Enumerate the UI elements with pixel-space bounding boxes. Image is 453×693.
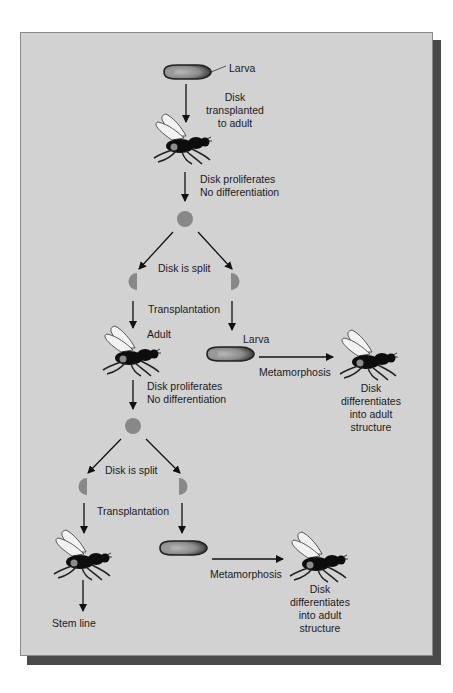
- label-proliferates-2: Disk proliferates: [147, 380, 222, 392]
- label-diff2-1: Disk: [310, 583, 330, 595]
- label-diff1-4: structure: [351, 421, 392, 433]
- label-metamorphosis-2: Metamorphosis: [210, 568, 282, 580]
- label-diff2-3: into adult: [299, 609, 342, 621]
- larva-icon: [164, 65, 211, 79]
- label-larva-top: Larva: [229, 62, 255, 74]
- half-disk-icon: [129, 273, 138, 290]
- label-diff1-3: into adult: [350, 408, 393, 420]
- label-adult: Adult: [147, 328, 171, 340]
- disk-icon: [177, 211, 193, 227]
- label-transplantation-2: Transplantation: [97, 505, 169, 517]
- half-disk-icon: [231, 273, 240, 290]
- label-stem-line: Stem line: [52, 617, 96, 629]
- label-transplant-3: to adult: [218, 117, 252, 129]
- label-transplant-2: transplanted: [206, 104, 264, 116]
- label-split-2: Disk is split: [105, 464, 158, 476]
- label-diff1-2: differentiates: [341, 395, 401, 407]
- label-no-diff-2: No differentiation: [147, 393, 226, 405]
- label-no-diff-1: No differentiation: [200, 186, 279, 198]
- fly-icon: [154, 114, 212, 164]
- label-split-1: Disk is split: [158, 262, 211, 274]
- label-proliferates-1: Disk proliferates: [200, 173, 275, 185]
- label-metamorphosis-1: Metamorphosis: [259, 366, 331, 378]
- label-diff2-4: structure: [300, 622, 341, 634]
- label-transplant-1: Disk: [225, 91, 245, 103]
- label-transplantation-1: Transplantation: [148, 303, 220, 315]
- label-diff1-1: Disk: [361, 382, 381, 394]
- label-diff2-2: differentiates: [290, 596, 350, 608]
- label-larva-mid: Larva: [243, 333, 269, 345]
